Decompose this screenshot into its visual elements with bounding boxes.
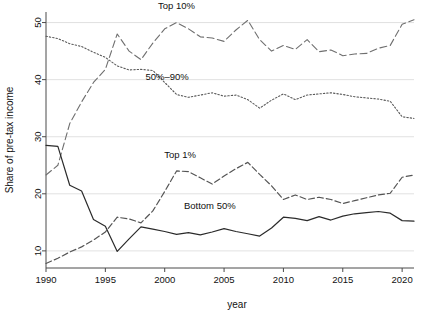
y-tick-label-30: 30 (32, 131, 43, 142)
chart-container: 10203040501990199520002005201020152020 T… (0, 0, 423, 313)
y-tick-label-20: 20 (32, 189, 43, 200)
series-labels-group: Top 10%50%–90%Top 1%Bottom 50% (145, 0, 236, 210)
y-tick-label-40: 40 (32, 74, 43, 85)
series-lines-group (46, 20, 414, 264)
ticks-group (42, 23, 402, 272)
series-line-bottom-50 (46, 145, 414, 251)
x-axis-title: year (227, 299, 247, 310)
series-line-50-90 (46, 36, 414, 118)
y-axis-title: Share of pre-tax income (4, 86, 15, 193)
series-label-top-1: Top 1% (164, 149, 196, 160)
x-tick-label-2000: 2000 (154, 274, 175, 285)
series-label-50-90: 50%–90% (145, 71, 189, 82)
x-tick-label-2005: 2005 (213, 274, 234, 285)
x-tick-label-1995: 1995 (95, 274, 116, 285)
x-tick-label-2010: 2010 (273, 274, 294, 285)
x-tick-label-2015: 2015 (332, 274, 353, 285)
income-share-line-chart: 10203040501990199520002005201020152020 T… (0, 0, 423, 313)
x-tick-label-1990: 1990 (35, 274, 56, 285)
tick-labels-group: 10203040501990199520002005201020152020 (32, 17, 413, 285)
x-tick-label-2020: 2020 (392, 274, 413, 285)
y-tick-label-50: 50 (32, 17, 43, 28)
gridlines-group (46, 23, 414, 251)
series-label-bottom-50: Bottom 50% (184, 200, 236, 211)
y-tick-label-10: 10 (32, 246, 43, 257)
series-label-top-10: Top 10% (158, 0, 196, 11)
